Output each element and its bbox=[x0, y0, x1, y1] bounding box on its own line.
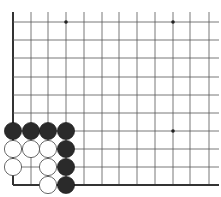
white-stone bbox=[4, 140, 21, 157]
black-stone bbox=[57, 158, 74, 175]
white-stone bbox=[39, 176, 56, 193]
black-stone bbox=[57, 176, 74, 193]
black-stone bbox=[39, 122, 56, 139]
stones-layer bbox=[4, 122, 74, 193]
white-stone bbox=[22, 140, 39, 157]
star-point-icon bbox=[171, 129, 175, 133]
white-stone bbox=[4, 158, 21, 175]
star-point-icon bbox=[171, 20, 175, 24]
black-stone bbox=[57, 140, 74, 157]
go-board bbox=[0, 0, 221, 197]
star-points bbox=[64, 20, 175, 133]
star-point-icon bbox=[64, 20, 68, 24]
black-stone bbox=[57, 122, 74, 139]
white-stone bbox=[39, 158, 56, 175]
black-stone bbox=[4, 122, 21, 139]
black-stone bbox=[22, 122, 39, 139]
white-stone bbox=[39, 140, 56, 157]
